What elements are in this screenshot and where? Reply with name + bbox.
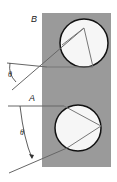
angle-label-b: θ — [8, 70, 12, 79]
label-b: B — [31, 14, 37, 24]
angle-label-a: θ — [20, 128, 24, 137]
angle-arrow-a — [29, 154, 34, 159]
circle-a — [55, 105, 101, 151]
label-a: A — [28, 93, 35, 103]
optics-diagram: θ B θ A — [0, 0, 117, 182]
